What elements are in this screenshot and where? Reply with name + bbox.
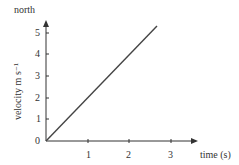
y-axis-label: velocity m s⁻¹ <box>12 57 23 127</box>
y-tick-4: 4 <box>35 48 40 59</box>
y-tick-0: 0 <box>35 135 40 146</box>
x-tick-3: 3 <box>168 149 173 160</box>
velocity-line <box>46 26 157 141</box>
x-axis-label: time (s) <box>200 149 231 160</box>
x-tick-2: 2 <box>126 149 131 160</box>
x-tick-1: 1 <box>86 149 91 160</box>
y-tick-2: 2 <box>35 92 40 103</box>
y-tick-5: 5 <box>35 27 40 38</box>
x-axis-arrow-icon <box>191 138 198 144</box>
y-axis-arrow-icon <box>43 20 49 27</box>
y-tick-3: 3 <box>35 70 40 81</box>
y-tick-1: 1 <box>36 113 41 124</box>
north-label: north <box>14 4 35 15</box>
